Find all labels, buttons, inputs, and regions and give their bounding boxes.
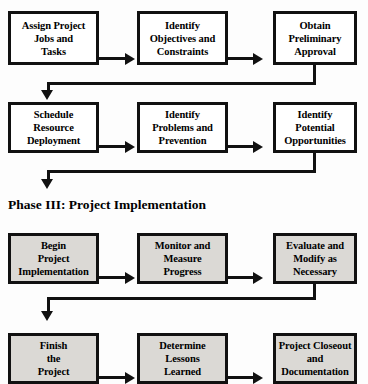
flow-box-begin-project-implementation[interactable]: Begin Project Implementation [8,233,99,284]
phase-heading-phase-3: Phase III: Project Implementation [8,197,206,212]
flow-box-monitor-and-measure-progress[interactable]: Monitor and Measure Progress [137,233,228,284]
flow-box-project-closeout-and-documentation[interactable]: Project Closeout and Documentation [273,333,357,384]
connector-row2-wrap-across [47,170,316,173]
flow-box-label: Project Closeout and Documentation [278,339,352,378]
flow-box-assign-project-jobs-and-tasks[interactable]: Assign Project Jobs and Tasks [8,11,99,65]
flow-box-label: Assign Project Jobs and Tasks [13,19,94,58]
flow-box-label: Identify Potential Opportunities [278,108,352,147]
flow-box-schedule-resource-deployment[interactable]: Schedule Resource Deployment [8,102,99,153]
connector-row2-box2-to-box3 [228,145,255,148]
arrowhead-row2-box2-to-box3 [253,141,263,153]
flow-box-label: Schedule Resource Deployment [13,108,94,147]
flow-box-label: Determine Lessons Learned [142,339,223,378]
flow-box-label: Begin Project Implementation [13,239,94,278]
flow-box-identify-problems-and-prevention[interactable]: Identify Problems and Prevention [137,102,228,153]
connector-row4-box1-to-box2 [99,376,127,379]
flow-box-identify-potential-opportunities[interactable]: Identify Potential Opportunities [273,102,357,153]
flow-box-label: Evaluate and Modify as Necessary [278,239,352,278]
flow-box-label: Obtain Preliminary Approval [278,19,352,58]
arrowhead-row2-to-row3 [41,179,53,189]
arrowhead-row4-box2-to-box3 [253,372,263,384]
arrowhead-row1-box1-to-box2 [125,53,135,65]
flow-box-finish-the-project[interactable]: Finish the Project [8,333,99,384]
flow-box-identify-objectives-and-constraints[interactable]: Identify Objectives and Constraints [137,11,228,65]
flow-box-label: Monitor and Measure Progress [142,239,223,278]
arrowhead-row4-box1-to-box2 [125,372,135,384]
flow-box-label: Finish the Project [13,339,94,378]
connector-row3-wrap-into-row4 [47,297,50,312]
arrowhead-row1-to-row2 [41,90,53,100]
connector-row3-box1-to-box2 [99,276,127,279]
arrowhead-row3-box2-to-box3 [253,272,263,284]
flow-box-evaluate-and-modify-as-necessary[interactable]: Evaluate and Modify as Necessary [273,233,357,284]
arrowhead-row3-to-row4 [41,311,53,321]
flow-box-determine-lessons-learned[interactable]: Determine Lessons Learned [137,333,228,384]
connector-row4-box2-to-box3 [228,376,255,379]
connector-row3-box2-to-box3 [228,276,255,279]
connector-row3-wrap-across [47,297,316,300]
arrowhead-row1-box2-to-box3 [253,53,263,65]
connector-row1-box1-to-box2 [99,57,127,60]
flowchart-canvas: Assign Project Jobs and Tasks Identify O… [0,0,368,384]
flow-box-label: Identify Objectives and Constraints [142,19,223,58]
flow-box-obtain-preliminary-approval[interactable]: Obtain Preliminary Approval [273,11,357,65]
flow-box-label: Identify Problems and Prevention [142,108,223,147]
connector-row1-box2-to-box3 [228,57,255,60]
arrowhead-row3-box1-to-box2 [125,272,135,284]
arrowhead-row2-box1-to-box2 [125,141,135,153]
connector-row1-wrap-across [47,82,316,85]
connector-row2-box1-to-box2 [99,145,127,148]
